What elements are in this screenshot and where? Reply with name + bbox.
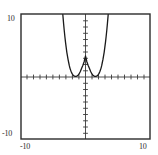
y-axis-max-label: 10 [7,15,15,23]
x-axis-max-label: 10 [139,143,147,151]
cropped-header-remnant [7,0,15,8]
graph-figure: 10 -10 -10 10 [0,0,158,155]
y-axis-min-label: -10 [2,130,12,138]
cartesian-plot [0,0,158,155]
x-axis-min-label: -10 [20,143,30,151]
